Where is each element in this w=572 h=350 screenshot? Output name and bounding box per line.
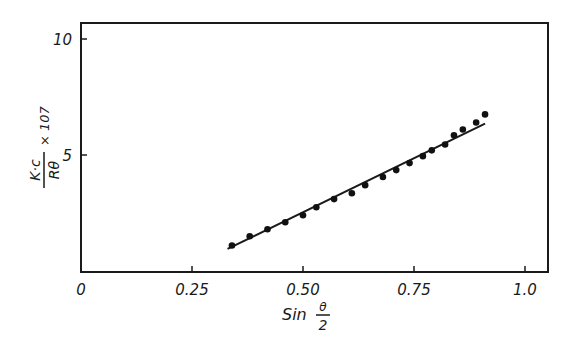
data-point xyxy=(442,141,449,148)
x-label-numerator: θ xyxy=(319,300,327,314)
x-tick-label: 0.50 xyxy=(286,281,319,299)
data-point xyxy=(482,111,489,118)
data-point xyxy=(380,174,387,181)
y-label-numerator: K·c xyxy=(27,159,43,181)
axis-tick-labels: 00.250.500.751.0510 xyxy=(53,31,537,299)
data-point xyxy=(420,153,427,160)
data-point xyxy=(313,204,320,211)
y-label-suffix: × 107 xyxy=(37,105,52,146)
y-tick-label: 5 xyxy=(62,147,72,165)
data-point xyxy=(282,219,289,226)
data-points xyxy=(229,111,489,249)
data-point xyxy=(406,160,413,167)
data-point xyxy=(246,233,253,240)
y-tick-label: 10 xyxy=(53,31,72,49)
x-tick-label: 0.75 xyxy=(397,281,430,299)
x-label-prefix: Sin xyxy=(282,305,307,324)
x-label-denominator: 2 xyxy=(319,317,328,333)
data-point xyxy=(362,182,369,189)
x-tick-label: 0.25 xyxy=(175,281,208,299)
data-point xyxy=(460,126,467,133)
data-point xyxy=(428,147,435,154)
plot-frame xyxy=(81,23,548,272)
data-point xyxy=(393,167,400,174)
data-point xyxy=(300,212,307,219)
data-point xyxy=(349,190,356,197)
data-point xyxy=(331,196,338,203)
data-point xyxy=(451,132,458,139)
x-axis-label: Sin θ 2 xyxy=(282,300,330,333)
data-point xyxy=(473,119,480,126)
axis-ticks xyxy=(81,39,525,272)
y-axis-label: K·c Rθ × 107 xyxy=(27,105,62,188)
x-tick-label: 1.0 xyxy=(513,281,537,299)
x-tick-label: 0 xyxy=(76,281,86,299)
data-point xyxy=(264,226,271,233)
scatter-chart: 00.250.500.751.0510 K·c Rθ × 107 Sin θ 2 xyxy=(0,0,572,350)
data-point xyxy=(229,242,236,249)
y-label-denominator: Rθ xyxy=(46,160,62,179)
